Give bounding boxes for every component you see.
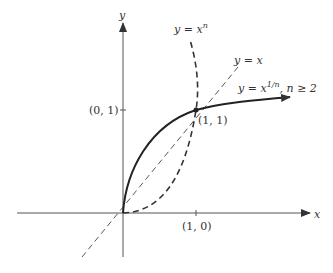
x-tick-label: (1, 0) (182, 220, 212, 233)
root-curve-label: y = x1/n, n ≥ 2 (237, 80, 317, 95)
x-axis-label: x (314, 208, 321, 221)
y-tick-label: (0, 1) (89, 104, 119, 117)
y-axis-label: y (118, 9, 126, 22)
function-graph: y x (0, 1) (1, 0) (1, 1) y = xn y = x y … (0, 0, 333, 273)
power-curve (123, 40, 198, 213)
intersection-label: (1, 1) (198, 114, 228, 127)
identity-line (82, 67, 238, 257)
intersection-point (194, 108, 199, 113)
power-curve-label: y = xn (173, 21, 208, 36)
identity-line-label: y = x (233, 54, 263, 67)
